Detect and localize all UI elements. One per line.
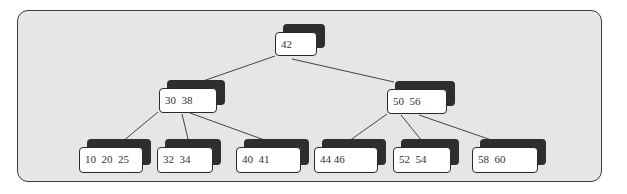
tree-node-leaf: 58 60 [472,147,538,173]
tree-node-root: 42 [275,32,317,56]
node-keys: 50 56 [387,89,447,114]
node-keys: 44 46 [314,147,378,173]
edge-right-leaf4 [349,114,387,141]
tree-node-right: 50 56 [387,89,447,114]
edge-root-left [203,56,275,81]
node-keys: 42 [275,32,317,56]
tree-node-leaf: 10 20 25 [79,147,143,173]
tree-node-leaf: 44 46 [314,147,378,173]
node-keys: 32 34 [157,147,213,173]
node-keys: 40 41 [236,147,301,173]
tree-node-leaf: 32 34 [157,147,213,173]
node-keys: 52 54 [393,147,451,173]
tree-node-leaf: 40 41 [236,147,301,173]
node-keys: 10 20 25 [79,147,143,173]
tree-node-leaf: 52 54 [393,147,451,173]
edge-left-leaf1 [122,112,158,142]
node-keys: 58 60 [472,147,538,173]
edge-root-right [292,59,394,82]
edge-left-leaf3 [190,113,270,142]
tree-node-left: 30 38 [159,88,217,113]
edge-right-leaf5 [401,115,422,141]
node-keys: 30 38 [159,88,217,113]
